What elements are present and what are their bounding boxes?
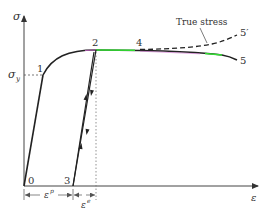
true-stress-leader xyxy=(200,28,207,43)
point-label-3: 3 xyxy=(64,175,70,186)
unload-arrow-icon xyxy=(89,90,94,97)
x-axis-label: ε xyxy=(251,192,256,203)
elastic-strain-sup: e xyxy=(87,197,91,204)
unload-arrow-icon-2 xyxy=(85,129,90,136)
point-label-2: 2 xyxy=(92,37,98,48)
stress-strain-diagram: σ ε σ y True stress 0 1 2 3 4 5 5′ ε p ε… xyxy=(0,0,271,216)
true-stress-label: True stress xyxy=(176,17,228,27)
elastic-loading-line xyxy=(24,75,43,186)
point-label-4: 4 xyxy=(136,37,142,48)
point-label-1: 1 xyxy=(37,63,43,74)
y-axis-label: σ xyxy=(13,10,21,23)
hardening-curve xyxy=(43,50,96,75)
yield-stress-label: σ xyxy=(8,68,16,81)
point-label-5: 5 xyxy=(240,55,246,66)
yield-stress-subscript: y xyxy=(15,75,21,83)
curve-highlight-green-2 xyxy=(205,54,222,56)
true-stress-curve xyxy=(140,35,237,50)
point-label-0: 0 xyxy=(28,175,34,186)
plastic-strain-label: ε xyxy=(44,190,49,200)
plastic-strain-sup: p xyxy=(50,187,54,195)
curve-highlight-magenta xyxy=(85,50,96,51)
point-label-5-prime: 5′ xyxy=(240,27,249,38)
elastic-strain-label: ε xyxy=(81,200,86,210)
reloading-line xyxy=(73,52,94,186)
